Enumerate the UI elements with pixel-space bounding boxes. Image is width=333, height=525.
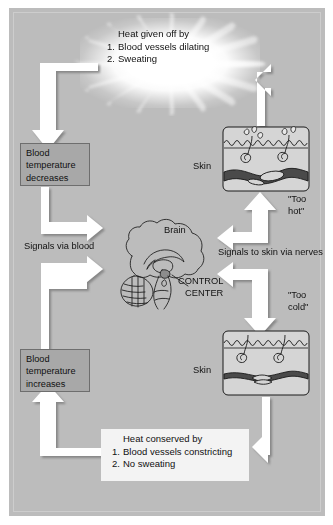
arrow-heat-to-temp-decrease <box>32 63 98 150</box>
brain-label: Brain <box>164 224 186 236</box>
arrow-skin-to-heat-conserve <box>252 397 270 463</box>
control-center-label: CONTROL CENTER <box>178 276 223 299</box>
arrow-heat-conserve-to-temp-increase <box>32 384 101 456</box>
skin-bottom-label: Skin <box>193 364 211 376</box>
heat-conserve-item-2: 2.No sweating <box>101 458 249 471</box>
arrow-temp-increase-to-brain <box>41 256 103 349</box>
signals-to-skin-label: Signals to skin via nerves <box>218 246 323 258</box>
heat-conserve-textbox: Heat conserved by 1.Blood vessels constr… <box>101 429 249 481</box>
heat-loss-item-1: 1.Blood vessels dilating <box>96 41 246 54</box>
heat-conserve-item-1: 1.Blood vessels constricting <box>101 446 249 459</box>
arrow-brain-to-skin-hot <box>217 192 276 250</box>
skin-top-label: Skin <box>193 160 211 172</box>
heat-loss-item-2: 2.Sweating <box>96 53 246 66</box>
skin-dilated-sweating-icon <box>222 126 310 192</box>
signals-via-blood-label: Signals via blood <box>24 240 94 252</box>
blood-temperature-decreases-box: Blood temperature decreases <box>20 143 90 186</box>
thermoregulation-diagram: Heat given off by 1.Blood vessels dilati… <box>0 0 333 525</box>
heat-loss-heading: Heat given off by <box>96 28 246 41</box>
arrow-brain-to-skin-cold <box>217 262 276 336</box>
skin-constricted-icon <box>222 330 310 396</box>
blood-temperature-increases-box: Blood temperature increases <box>20 349 90 392</box>
too-cold-label: "Toocold" <box>288 290 308 313</box>
arrow-temp-decrease-to-brain <box>41 187 103 241</box>
heat-loss-textbox: Heat given off by 1.Blood vessels dilati… <box>96 28 246 66</box>
heat-conserve-heading: Heat conserved by <box>101 433 249 446</box>
arrow-skin-to-heat-loss <box>255 64 271 126</box>
too-hot-label: "Toohot" <box>288 194 306 217</box>
